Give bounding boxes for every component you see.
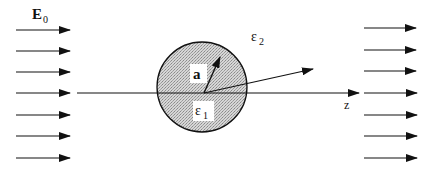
outer-permittivity-label: ε 2 <box>251 29 264 47</box>
svg-text:0: 0 <box>43 14 48 25</box>
radius-label: a <box>190 64 207 83</box>
dielectric-sphere-diagram: E 0 a ε 1 ε 2 z <box>0 0 434 172</box>
svg-text:ε: ε <box>195 103 201 118</box>
incident-field-label: E 0 <box>32 6 48 25</box>
svg-text:ε: ε <box>251 29 257 44</box>
inner-permittivity-label: ε 1 <box>193 101 214 121</box>
transmitted-field-arrows <box>364 28 417 158</box>
incident-field-arrows <box>16 30 70 158</box>
svg-text:1: 1 <box>203 110 208 121</box>
svg-text:2: 2 <box>259 36 264 47</box>
axis-label: z <box>344 98 349 112</box>
svg-text:a: a <box>193 66 201 82</box>
svg-text:E: E <box>32 6 42 22</box>
